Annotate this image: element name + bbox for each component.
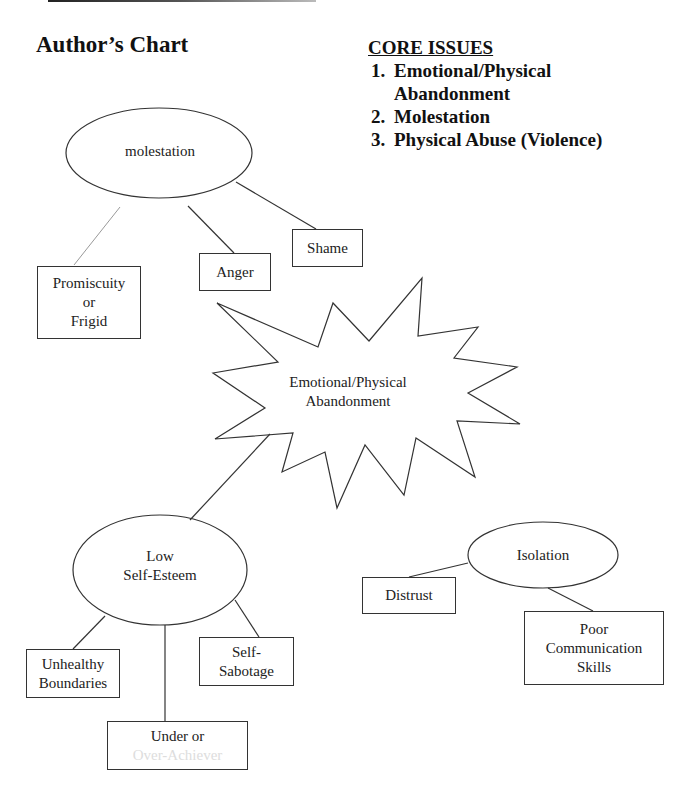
poor-communication-box: Poor Communication Skills [524, 611, 664, 685]
distrust-label: Distrust [385, 586, 433, 605]
poor-comm-line1: Poor [546, 620, 643, 639]
promiscuity-line2: or [53, 293, 126, 312]
abandonment-line2: Abandonment [278, 392, 418, 411]
low-self-esteem-line2: Self-Esteem [100, 566, 220, 585]
promiscuity-line3: Frigid [53, 312, 126, 331]
isolation-label: Isolation [483, 546, 603, 565]
promiscuity-line1: Promiscuity [53, 274, 126, 293]
abandonment-label: Emotional/Physical Abandonment [278, 373, 418, 411]
self-sabotage-box: Self- Sabotage [199, 637, 294, 686]
unhealthy-line2: Boundaries [39, 674, 107, 693]
shame-label: Shame [307, 239, 348, 258]
under-over-achiever-box: Under or Over-Achiever [107, 721, 248, 770]
distrust-box: Distrust [362, 577, 456, 614]
poor-comm-line2: Communication [546, 639, 643, 658]
anger-label: Anger [216, 263, 254, 282]
under-over-line1: Under or [133, 727, 223, 746]
low-self-esteem-line1: Low [100, 547, 220, 566]
self-sabotage-line1: Self- [219, 643, 274, 662]
abandonment-line1: Emotional/Physical [278, 373, 418, 392]
low-self-esteem-label: Low Self-Esteem [100, 547, 220, 585]
anger-box: Anger [199, 253, 271, 291]
poor-comm-line3: Skills [546, 658, 643, 677]
molestation-label: molestation [90, 142, 230, 161]
self-sabotage-line2: Sabotage [219, 662, 274, 681]
unhealthy-boundaries-box: Unhealthy Boundaries [26, 649, 120, 698]
shame-box: Shame [292, 229, 363, 267]
under-over-line2: Over-Achiever [133, 746, 223, 765]
unhealthy-line1: Unhealthy [39, 655, 107, 674]
promiscuity-frigid-box: Promiscuity or Frigid [37, 266, 141, 339]
